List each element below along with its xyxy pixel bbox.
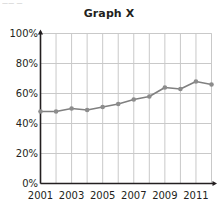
y-axis-tick-labels: 0%20%40%60%80%100% [0,0,38,213]
line-chart: Graph X 0%20%40%60%80%100% 2001200320052… [0,0,218,213]
data-series-markers [38,79,214,114]
y-tick-label: 100% [0,28,38,39]
x-tick-label: 2003 [59,190,84,201]
data-series-line [41,82,212,112]
y-tick-label: 60% [0,88,38,99]
axis-lines [38,30,217,187]
grid-lines [41,34,212,184]
x-tick-label: 2009 [152,190,177,201]
x-tick-label: 2005 [90,190,115,201]
y-tick-label: 0% [0,178,38,189]
x-tick-label: 2001 [28,190,53,201]
y-tick-label: 20% [0,148,38,159]
x-tick-label: 2011 [183,190,208,201]
y-tick-label: 80% [0,58,38,69]
y-tick-label: 40% [0,118,38,129]
x-tick-label: 2007 [121,190,146,201]
x-axis-tick-labels: 200120032005200720092011 [0,190,218,210]
